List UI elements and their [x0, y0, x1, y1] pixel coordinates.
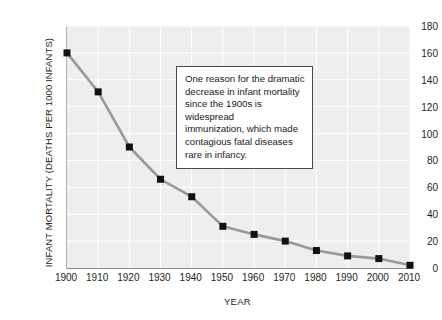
data-point-marker: 1900: 160	[64, 49, 71, 56]
annotation-textbox: One reason for the dramaticdecrease in i…	[176, 66, 313, 169]
y-axis-tick-label: 140	[384, 74, 442, 85]
annotation-line: contagious fatal diseases	[185, 136, 305, 149]
y-axis-tick-label: 80	[384, 155, 442, 166]
data-point-marker: 1990: 9	[344, 252, 351, 259]
data-point-marker: 1950: 31	[219, 223, 226, 230]
data-point-marker: 1940: 53	[188, 193, 195, 200]
x-axis-title: YEAR	[66, 296, 409, 307]
data-point-marker: 1960: 25	[251, 231, 258, 238]
x-axis-tick-label: 1950	[211, 272, 233, 283]
x-axis-tick-label: 1920	[117, 272, 139, 283]
annotation-line: One reason for the dramatic	[185, 73, 305, 86]
x-axis-tick-label: 1970	[273, 272, 295, 283]
x-axis-tick-label: 2010	[398, 272, 420, 283]
annotation-line: immunization, which made	[185, 123, 305, 136]
y-axis-tick-label: 160	[384, 47, 442, 58]
data-point-marker: 1930: 66	[157, 176, 164, 183]
infant-mortality-line-chart: INFANT MORTALITY (DEATHS PER 1000 INFANT…	[0, 0, 442, 320]
x-axis-tick-label: 1930	[148, 272, 170, 283]
data-point-marker: 1970: 20	[282, 238, 289, 245]
x-axis-tick-label: 1940	[180, 272, 202, 283]
x-axis-tick-label: 2000	[367, 272, 389, 283]
x-axis-tick-label: 1980	[304, 272, 326, 283]
x-axis-tick-label: 1900	[55, 272, 77, 283]
y-axis-tick-label: 100	[384, 128, 442, 139]
data-point-marker: 1910: 131	[95, 88, 102, 95]
y-axis-tick-label: 180	[384, 21, 442, 32]
y-axis-title: INFANT MORTALITY (DEATHS PER 1000 INFANT…	[43, 13, 54, 293]
y-axis-tick-label: 20	[384, 236, 442, 247]
annotation-line: rare in infancy.	[185, 149, 305, 162]
annotation-line: decrease in infant mortality	[185, 86, 305, 99]
x-axis-tick-label: 1990	[336, 272, 358, 283]
x-axis-tick-label: 1960	[242, 272, 264, 283]
y-axis-tick-label: 40	[384, 209, 442, 220]
data-point-marker: 1920: 90	[126, 144, 133, 151]
data-point-marker: 2000: 7	[375, 255, 382, 262]
annotation-line: since the 1900s is widespread	[185, 98, 305, 123]
y-axis-tick-label: 60	[384, 182, 442, 193]
data-point-marker: 1980: 13	[313, 247, 320, 254]
y-axis-tick-label: 120	[384, 101, 442, 112]
x-axis-tick-label: 1910	[86, 272, 108, 283]
